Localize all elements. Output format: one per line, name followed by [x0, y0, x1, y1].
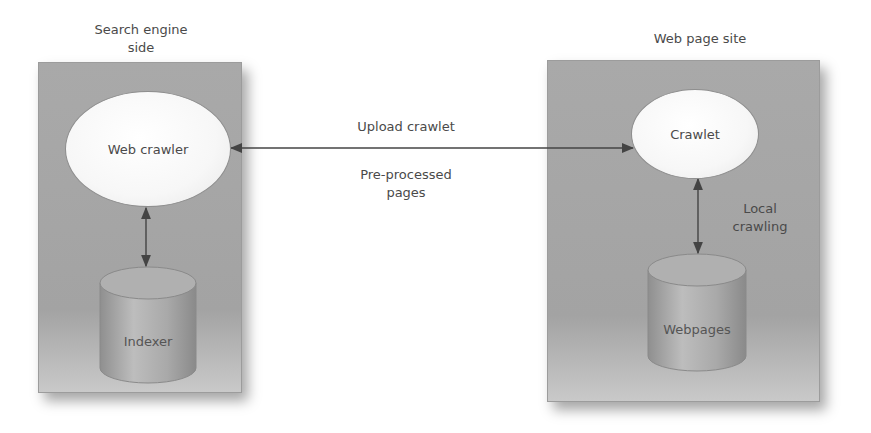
- webpages-cylinder: [648, 254, 746, 371]
- web-crawler-label: Web crawler: [108, 142, 189, 157]
- pre-processed-line2: pages: [336, 184, 476, 202]
- crawlet-label: Crawlet: [670, 127, 720, 142]
- local-crawling-label: Local crawling: [715, 200, 805, 236]
- indexer-cylinder: [100, 267, 196, 383]
- local-crawling-line1: Local: [715, 200, 805, 218]
- pre-processed-pages-label: Pre-processed pages: [336, 166, 476, 202]
- local-crawling-line2: crawling: [715, 218, 805, 236]
- webpages-label: Webpages: [647, 321, 747, 339]
- indexer-label: Indexer: [98, 333, 198, 351]
- upload-crawlet-label: Upload crawlet: [336, 118, 476, 136]
- crawlet-node: Crawlet: [631, 89, 759, 179]
- web-crawler-node: Web crawler: [65, 91, 231, 207]
- pre-processed-line1: Pre-processed: [336, 166, 476, 184]
